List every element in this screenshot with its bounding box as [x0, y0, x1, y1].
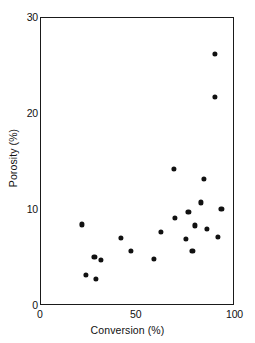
- x-tick-label-50: 50: [130, 309, 141, 320]
- data-point: [193, 223, 198, 228]
- data-point: [118, 235, 123, 240]
- data-point: [129, 249, 134, 254]
- data-point: [183, 236, 188, 241]
- scatter-chart-figure: 30 20 10 0 0 50 100 Conversion (%) Poros…: [0, 0, 255, 343]
- data-point: [201, 177, 206, 182]
- data-point: [186, 209, 191, 214]
- scatter-points-layer: [41, 18, 233, 304]
- y-tick-label-20: 20: [27, 108, 38, 119]
- x-axis-title: Conversion (%): [0, 324, 255, 336]
- y-tick-label-30: 30: [27, 12, 38, 23]
- data-point: [219, 206, 224, 211]
- data-point: [190, 249, 195, 254]
- plot-area: [40, 17, 234, 305]
- x-tick-label-0: 0: [37, 309, 43, 320]
- data-point: [215, 234, 220, 239]
- data-point: [159, 229, 164, 234]
- data-point: [171, 166, 176, 171]
- x-tick-label-100: 100: [226, 309, 243, 320]
- data-point: [212, 51, 217, 56]
- data-point: [204, 227, 209, 232]
- data-point: [172, 215, 177, 220]
- data-point: [92, 254, 97, 259]
- y-axis-title: Porosity (%): [7, 93, 19, 223]
- data-point: [94, 277, 99, 282]
- y-tick-label-10: 10: [27, 204, 38, 215]
- data-point: [151, 256, 156, 261]
- data-point: [198, 200, 203, 205]
- data-point: [99, 257, 104, 262]
- data-point: [79, 222, 84, 227]
- data-point: [212, 94, 217, 99]
- data-point: [83, 273, 88, 278]
